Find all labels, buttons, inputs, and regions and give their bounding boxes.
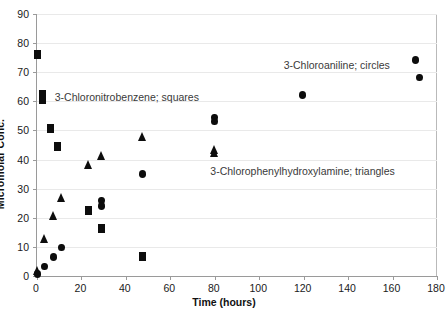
gridline-horizontal [37, 14, 437, 15]
data-point-circle [98, 202, 105, 210]
x-tick-label: 180 [416, 283, 448, 293]
y-tick-mark [33, 160, 37, 161]
data-point-triangle [40, 234, 48, 243]
gridline-horizontal [37, 247, 437, 248]
series-label-annotation: 3-Chloroaniline; circles [284, 59, 390, 71]
x-tick-label: 80 [194, 283, 234, 293]
y-tick-mark [33, 101, 37, 102]
data-point-circle [211, 118, 218, 126]
y-tick-label: 30 [3, 184, 29, 194]
y-tick-mark [33, 218, 37, 219]
x-tick-label: 40 [105, 283, 145, 293]
data-point-circle [58, 244, 65, 252]
y-tick-mark [33, 130, 37, 131]
x-tick-mark [348, 276, 349, 280]
gridline-horizontal [37, 218, 437, 219]
x-tick-mark [215, 276, 216, 280]
series-label-annotation: 3-Chlorophenylhydroxylamine; triangles [210, 165, 394, 177]
x-tick-label: 60 [149, 283, 189, 293]
x-tick-label: 120 [283, 283, 323, 293]
series-label-annotation: 3-Chloronitrobenzene; squares [55, 91, 199, 103]
data-point-triangle [138, 132, 146, 141]
x-tick-label: 100 [238, 283, 278, 293]
data-point-circle [41, 263, 48, 271]
y-tick-mark [33, 14, 37, 15]
x-tick-mark [81, 276, 82, 280]
x-tick-label: 20 [60, 283, 100, 293]
gridline-horizontal [37, 72, 437, 73]
y-tick-label: 20 [3, 213, 29, 223]
data-point-square [98, 224, 105, 233]
x-tick-mark [259, 276, 260, 280]
gridline-horizontal [37, 160, 437, 161]
data-point-circle [412, 56, 419, 64]
y-tick-label: 90 [3, 9, 29, 19]
data-point-triangle [97, 151, 105, 160]
data-point-square [54, 142, 61, 151]
data-point-triangle [33, 266, 41, 275]
data-point-triangle [84, 160, 92, 169]
x-tick-label: 140 [327, 283, 367, 293]
y-tick-label: 0 [3, 271, 29, 281]
plot-area: 3-Chloroaniline; circles3-Chloronitroben… [36, 14, 437, 277]
x-axis-title: Time (hours) [0, 296, 448, 308]
y-tick-label: 70 [3, 67, 29, 77]
x-tick-mark [437, 276, 438, 280]
y-tick-label: 80 [3, 38, 29, 48]
gridline-horizontal [37, 189, 437, 190]
data-point-square [39, 95, 46, 104]
data-point-square [139, 252, 146, 261]
y-tick-mark [33, 247, 37, 248]
y-tick-mark [33, 43, 37, 44]
data-point-circle [139, 170, 146, 178]
y-tick-label: 60 [3, 96, 29, 106]
data-point-circle [416, 74, 423, 82]
data-point-triangle [210, 148, 218, 157]
x-tick-mark [393, 276, 394, 280]
gridline-horizontal [37, 130, 437, 131]
y-tick-label: 50 [3, 125, 29, 135]
data-point-triangle [57, 193, 65, 202]
x-tick-mark [304, 276, 305, 280]
x-tick-mark [170, 276, 171, 280]
gridline-horizontal [37, 43, 437, 44]
x-tick-mark [126, 276, 127, 280]
y-axis-title: Micromolar Conc. [0, 104, 6, 224]
data-point-square [34, 50, 41, 59]
data-point-circle [50, 253, 57, 261]
data-point-square [47, 124, 54, 133]
y-tick-mark [33, 189, 37, 190]
x-tick-label: 0 [16, 283, 56, 293]
y-tick-mark [33, 72, 37, 73]
data-point-triangle [49, 211, 57, 220]
y-tick-label: 40 [3, 155, 29, 165]
scatter-chart: 3-Chloroaniline; circles3-Chloronitroben… [0, 0, 448, 313]
y-tick-label: 10 [3, 242, 29, 252]
data-point-circle [299, 91, 306, 99]
data-point-square [85, 206, 92, 215]
x-tick-label: 160 [372, 283, 412, 293]
